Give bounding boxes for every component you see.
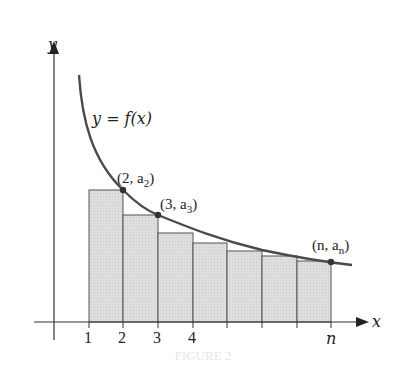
- x-ticks: [89, 322, 331, 328]
- curve-label: y = f(x): [91, 109, 152, 128]
- point-label-n: (n, an): [312, 237, 349, 256]
- tick-label-1: 1: [84, 329, 92, 346]
- rect-a2: [89, 190, 123, 322]
- rect-a6: [227, 251, 262, 322]
- tick-label-3: 3: [153, 329, 161, 346]
- point-label-2: (2, a2): [117, 170, 154, 189]
- x-axis-arrow-icon: [356, 317, 369, 327]
- integral-test-figure: y x y = f(x) 1 2 3 4 n (2, a2) (3, a3) (…: [0, 0, 406, 376]
- point-2-a2: [120, 187, 126, 193]
- point-n-an: [328, 259, 334, 265]
- rect-an: [297, 261, 331, 322]
- rect-a5: [193, 243, 227, 322]
- figure-caption: FIGURE 2: [0, 348, 406, 364]
- tick-label-4: 4: [188, 329, 196, 346]
- tick-label-2: 2: [118, 329, 126, 346]
- rect-a7: [262, 256, 297, 322]
- x-axis-label: x: [372, 312, 381, 331]
- tick-label-n: n: [326, 329, 336, 348]
- point-label-3: (3, a3): [160, 196, 197, 215]
- point-3-a3: [155, 212, 161, 218]
- rect-a4: [158, 233, 193, 322]
- y-axis-label: y: [47, 35, 58, 54]
- rect-a3: [123, 215, 158, 322]
